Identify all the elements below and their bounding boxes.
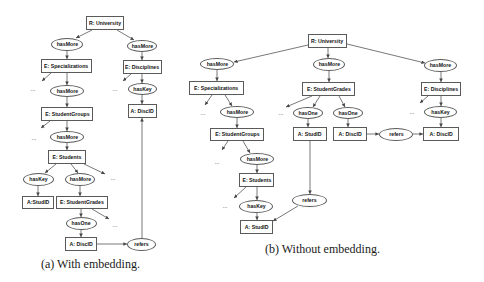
ellipsis-text: ...	[222, 203, 227, 209]
ellipsis-marker: ...	[271, 108, 291, 118]
node-label: A: StudID	[245, 224, 269, 229]
node-label: E: Students	[242, 177, 271, 182]
node-label: hasOne	[338, 110, 357, 115]
ellipsis-text: ...	[200, 110, 205, 116]
node-hasmore: hasMore	[313, 58, 345, 71]
node-label: E: StudentGroups	[215, 132, 259, 137]
node-label: hasMore	[318, 62, 339, 67]
node-label: hasKey	[247, 204, 265, 209]
node-attribute-studid: A: StudID	[293, 127, 327, 141]
node-hasone: hasOne	[333, 107, 363, 119]
figure-b-without-embedding: R: University hasMore hasMore hasMore E:…	[0, 0, 484, 282]
node-label: refers	[389, 132, 403, 137]
node-hasmore: hasMore	[240, 153, 274, 165]
node-hasmore: hasMore	[200, 58, 234, 70]
node-label: hasOne	[298, 110, 317, 115]
node-attribute-studid: A: StudID	[240, 220, 273, 234]
node-refers: refers	[292, 194, 327, 207]
ellipsis-text: ...	[409, 109, 414, 115]
figure-b-edges	[0, 0, 484, 282]
node-hasone: hasOne	[293, 107, 323, 119]
node-label: A: StudID	[298, 131, 322, 136]
node-attribute-discid: A: DiscID	[423, 127, 459, 141]
node-label: refers	[302, 198, 316, 203]
node-entity-studentgrades: E: StudentGrades	[302, 82, 355, 96]
node-label: E: Disciplines	[424, 86, 458, 91]
node-hasmore: hasMore	[220, 106, 254, 118]
caption-b: (b) Without embedding.	[265, 242, 380, 257]
node-entity-disciplines: E: Disciplines	[421, 82, 461, 96]
node-haskey: hasKey	[424, 106, 457, 118]
node-root-university: R: University	[308, 34, 347, 48]
ellipsis-text: ...	[278, 110, 283, 116]
node-attribute-discid: A: DiscID	[333, 127, 367, 141]
node-haskey: hasKey	[239, 200, 273, 213]
ellipsis-marker: ...	[402, 107, 422, 117]
node-label: hasMore	[226, 109, 247, 114]
node-label: hasKey	[431, 109, 449, 114]
node-label: E: Specializations	[194, 85, 238, 90]
node-entity-specializations: E: Specializations	[189, 81, 244, 95]
node-hasmore: hasMore	[424, 59, 457, 72]
node-label: A: DiscID	[429, 131, 452, 136]
node-label: E: StudentGrades	[307, 86, 351, 91]
ellipsis-text: ...	[214, 159, 219, 165]
node-label: hasMore	[206, 61, 227, 66]
ellipsis-marker: ...	[207, 157, 227, 167]
node-entity-students: E: Students	[239, 173, 274, 187]
node-entity-studentgroups: E: StudentGroups	[210, 128, 264, 141]
ellipsis-marker: ...	[215, 201, 235, 211]
node-label: R: University	[311, 38, 343, 43]
ellipsis-marker: ...	[193, 108, 213, 118]
node-label: A: DiscID	[338, 131, 361, 136]
node-label: hasMore	[246, 156, 267, 161]
node-refers: refers	[379, 128, 413, 141]
node-label: hasMore	[430, 63, 451, 68]
